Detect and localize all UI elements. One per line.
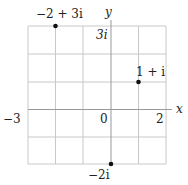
x-min-label: −3 — [3, 112, 21, 126]
y-max-label: 3i — [96, 28, 108, 42]
point-label-neg2i: −2i — [88, 168, 110, 182]
point-label-neg2-plus-3i: −2 + 3i — [36, 7, 83, 21]
point-neg2-plus-3i — [53, 24, 58, 29]
point-label-1-plus-i: 1 + i — [136, 65, 165, 79]
point-neg2i — [109, 162, 114, 167]
y-axis-label: y — [104, 5, 112, 19]
grid — [28, 26, 166, 164]
complex-plane-diagram: x y 0 −3 2 3i −2 + 3i 1 + i −2i — [0, 0, 188, 185]
x-axis-label: x — [176, 102, 183, 116]
origin-label: 0 — [100, 112, 108, 126]
x-max-label: 2 — [156, 112, 164, 126]
point-1-plus-i — [136, 80, 141, 85]
